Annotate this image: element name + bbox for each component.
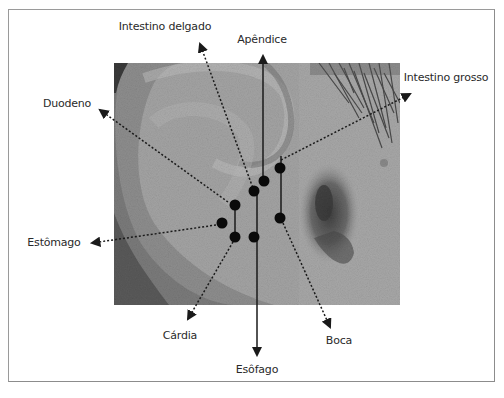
label-cardia: Cárdia (163, 329, 197, 342)
label-estomago: Estômago (27, 236, 80, 249)
label-duodeno: Duodeno (43, 97, 91, 110)
label-esofago: Esôfago (236, 363, 278, 376)
ear-photograph (114, 63, 400, 305)
ear-photo-illustration (114, 63, 400, 305)
label-apendice: Apêndice (237, 33, 287, 46)
label-intestino-delgado: Intestino delgado (119, 20, 211, 33)
label-boca: Boca (326, 334, 352, 347)
label-intestino-grosso: Intestino grosso (404, 71, 489, 84)
